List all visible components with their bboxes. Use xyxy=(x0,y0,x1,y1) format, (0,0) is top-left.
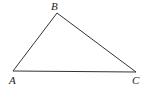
vertex-label-c: C xyxy=(132,74,140,86)
edge-bc xyxy=(57,13,136,72)
edge-ab xyxy=(13,13,57,71)
vertex-label-b: B xyxy=(51,0,58,12)
vertex-label-a: A xyxy=(8,74,16,86)
triangle-diagram: A B C xyxy=(0,0,149,88)
edge-ac xyxy=(13,71,136,72)
